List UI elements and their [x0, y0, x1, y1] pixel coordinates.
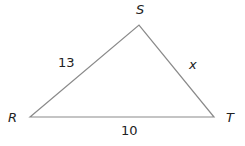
vertex-label-t: T	[226, 111, 234, 124]
vertex-label-r: R	[8, 111, 17, 124]
side-label-rt: 10	[121, 124, 138, 137]
side-label-st: x	[189, 58, 197, 71]
triangle-outline	[30, 25, 214, 117]
vertex-label-s: S	[136, 3, 144, 16]
side-label-rs: 13	[58, 56, 75, 69]
